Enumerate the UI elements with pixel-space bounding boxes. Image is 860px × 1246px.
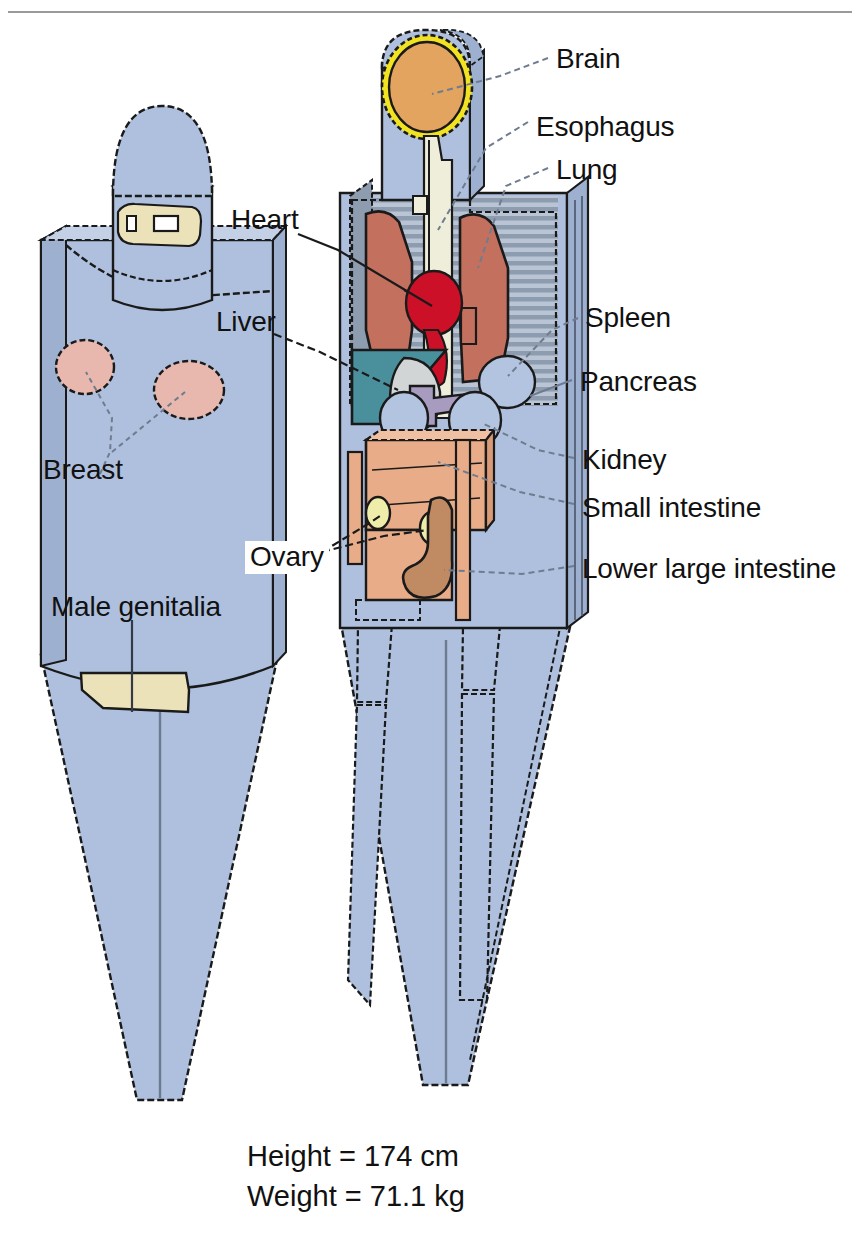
label-pancreas: Pancreas (580, 367, 697, 397)
diagram-page: Brain Esophagus Lung Heart Liver Spleen … (0, 0, 860, 1246)
left-figure-breast-right (154, 361, 224, 419)
label-brain: Brain (556, 44, 620, 74)
brain-organ (389, 42, 465, 132)
left-figure-breast-left (56, 340, 114, 394)
caption-height: Height = 174 cm (247, 1137, 459, 1175)
right-figure-leg-cut-left (357, 624, 392, 702)
caption-weight: Weight = 71.1 kg (247, 1177, 465, 1215)
left-figure-trunk-right-bevel (273, 226, 286, 666)
label-lower-large-intestine: Lower large intestine (582, 554, 836, 584)
left-figure-head (113, 106, 212, 196)
uterus-column-left (348, 452, 362, 564)
small-intestine-top-bevel (366, 430, 494, 440)
label-heart: Heart (231, 205, 298, 235)
label-male-genitalia: Male genitalia (51, 592, 221, 622)
left-figure-thyroid-left-notch (127, 216, 136, 231)
right-figure-leg-cut-left-2 (348, 705, 386, 1005)
right-figure-leg-cut-right-2 (460, 694, 494, 1000)
right-figure-leg-cut-right (462, 626, 500, 690)
label-liver: Liver (216, 307, 276, 337)
label-spleen: Spleen (585, 303, 671, 333)
label-kidney: Kidney (582, 445, 666, 475)
lung-right-notch (461, 308, 476, 344)
phantom-figure-illustration (0, 0, 860, 1246)
label-small-intestine: Small intestine (582, 493, 761, 523)
left-figure-thyroid-inner-rect (154, 216, 178, 231)
uterus-column-right (456, 440, 470, 620)
esophagus-step-shoulder (413, 196, 427, 214)
label-lung: Lung (556, 155, 618, 185)
heart-organ (406, 271, 462, 335)
label-ovary: Ovary (245, 541, 329, 574)
label-breast: Breast (43, 455, 123, 485)
label-esophagus: Esophagus (536, 112, 674, 142)
right-figure-head-right-bevel (470, 50, 484, 200)
